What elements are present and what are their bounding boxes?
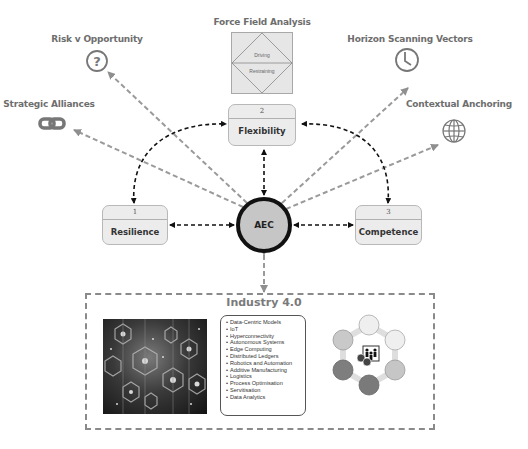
globe-icon (443, 120, 465, 142)
node-number: 3 (356, 206, 421, 220)
node-resilience[interactable]: 1 Resilience (102, 205, 168, 245)
node-competence[interactable]: 3 Competence (355, 205, 422, 245)
label-strategic-alliances: Strategic Alliances (3, 99, 94, 109)
list-item: Servitisation (226, 387, 301, 394)
list-item: Additive Manufacturing (226, 367, 301, 374)
industry-title: Industry 4.0 (226, 296, 301, 309)
list-item: IoT (226, 326, 301, 333)
arrow-aec-contextual-anchoring (286, 145, 438, 209)
force-field-diagram: Driving Restraining (231, 32, 293, 94)
hexagon-network-image (103, 319, 207, 414)
node-label: Flexibility (229, 119, 295, 143)
arrow-aec-risk-opportunity (108, 72, 247, 203)
arrow-aec-horizon-scanning (282, 88, 408, 203)
label-contextual-anchoring: Contextual Anchoring (406, 99, 512, 109)
node-aec-center[interactable]: AEC (236, 197, 292, 253)
list-item: Hyperconnectivity (226, 333, 301, 340)
svg-text:?: ? (93, 54, 101, 69)
force-field-restraining: Restraining (249, 68, 274, 74)
arrow-aec-strategic-alliances (74, 130, 243, 207)
node-number: 2 (229, 105, 295, 119)
list-item: Logistics (226, 373, 301, 380)
node-flexibility[interactable]: 2 Flexibility (228, 104, 296, 146)
industry-capabilities-list: Data-Centric Models IoT Hyperconnectivit… (220, 315, 306, 416)
list-item: Process Optimisation (226, 380, 301, 387)
node-number: 1 (103, 206, 167, 220)
list-item: Edge Computing (226, 346, 301, 353)
list-item: Data Analytics (226, 394, 301, 401)
node-label: Resilience (103, 220, 167, 244)
list-item: Robotics and Automation (226, 360, 301, 367)
label-risk-opportunity: Risk v Opportunity (51, 34, 142, 44)
node-label: Competence (356, 220, 421, 244)
list-item: Data-Centric Models (226, 319, 301, 326)
chain-link-icon (40, 119, 64, 128)
clock-icon (396, 49, 418, 71)
list-item: Autonomous Systems (226, 339, 301, 346)
arc-flexibility-competence (302, 124, 388, 203)
label-force-field-analysis: Force Field Analysis (213, 17, 310, 27)
aec-label: AEC (254, 220, 274, 230)
label-horizon-scanning: Horizon Scanning Vectors (347, 34, 472, 44)
list-item: Distributed Ledgers (226, 353, 301, 360)
force-field-driving: Driving (254, 52, 270, 58)
